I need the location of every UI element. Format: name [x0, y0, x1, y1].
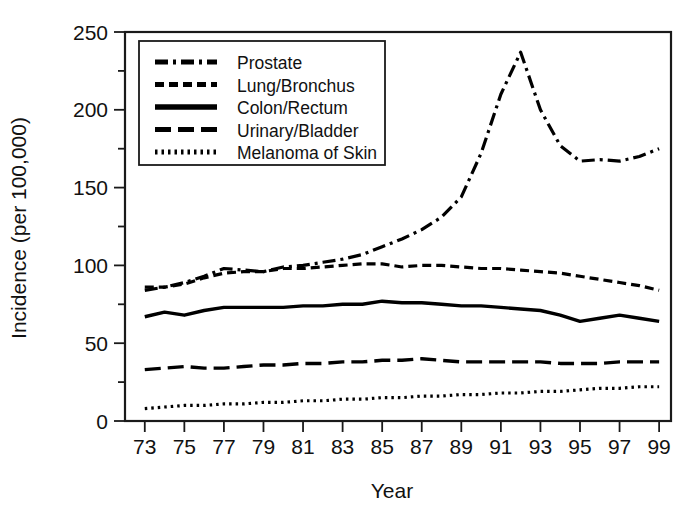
chart-container: 050100150200250 737577798183858789919395…: [0, 0, 699, 523]
y-tick-label: 250: [73, 21, 108, 44]
incidence-line-chart: 050100150200250 737577798183858789919395…: [0, 0, 699, 523]
legend-label: Colon/Rectum: [237, 98, 348, 118]
x-axis-tick-labels: 7375777981838587899193959799: [133, 435, 671, 458]
x-tick-label: 83: [331, 435, 354, 458]
x-tick-label: 85: [370, 435, 393, 458]
x-tick-label: 89: [450, 435, 473, 458]
legend-label: Prostate: [237, 53, 302, 73]
y-axis-tick-labels: 050100150200250: [73, 21, 108, 433]
x-tick-label: 95: [568, 435, 591, 458]
x-tick-label: 99: [647, 435, 670, 458]
legend-label: Melanoma of Skin: [237, 143, 377, 163]
y-tick-label: 150: [73, 176, 108, 199]
x-tick-label: 93: [529, 435, 552, 458]
y-tick-label: 100: [73, 254, 108, 277]
x-tick-label: 73: [133, 435, 156, 458]
x-tick-label: 97: [608, 435, 631, 458]
x-tick-label: 91: [489, 435, 512, 458]
x-tick-label: 75: [173, 435, 196, 458]
x-tick-label: 79: [252, 435, 275, 458]
legend: ProstateLung/BronchusColon/RectumUrinary…: [139, 41, 385, 165]
series-line-melanoma-of-skin: [145, 387, 659, 409]
series-line-urinary-bladder: [145, 359, 659, 370]
x-tick-label: 77: [212, 435, 235, 458]
y-tick-label: 0: [96, 410, 108, 433]
y-axis-title: Incidence (per 100,000): [7, 117, 30, 339]
legend-label: Lung/Bronchus: [237, 76, 355, 96]
x-tick-label: 81: [291, 435, 314, 458]
y-tick-label: 200: [73, 98, 108, 121]
y-tick-label: 50: [85, 332, 108, 355]
x-tick-label: 87: [410, 435, 433, 458]
x-axis-title: Year: [371, 479, 413, 502]
legend-label: Urinary/Bladder: [237, 121, 359, 141]
series-line-colon-rectum: [145, 301, 659, 321]
